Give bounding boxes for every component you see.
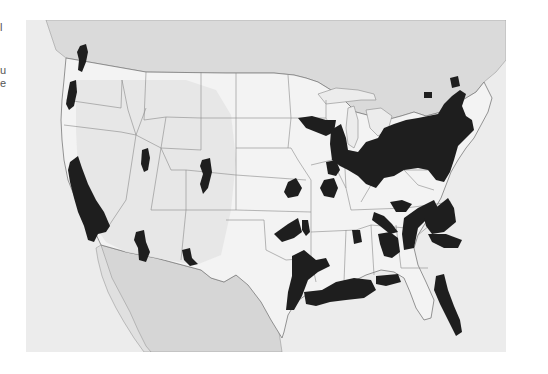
region-ottawa [424,92,432,98]
us-map [26,20,506,352]
map-canvas [26,20,506,352]
margin-text-fragment: l [0,22,2,33]
margin-text-fragment: e [0,78,6,89]
margin-text-fragment: u [0,65,6,76]
